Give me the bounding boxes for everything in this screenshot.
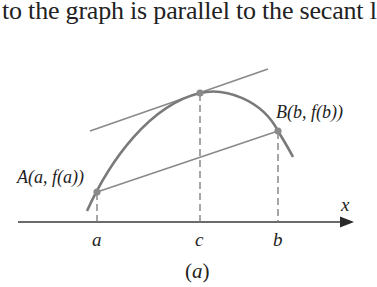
tick-label-a: a xyxy=(92,229,102,250)
secant-line xyxy=(97,131,278,192)
tick-label-c: c xyxy=(195,229,204,250)
x-axis-label: x xyxy=(340,194,350,215)
function-curve xyxy=(87,92,293,211)
figure-caption: (a) xyxy=(185,259,210,283)
point-b-marker xyxy=(274,127,281,134)
point-b-label: B(b, f(b)) xyxy=(276,102,343,123)
point-a-marker xyxy=(93,188,100,195)
tick-label-b: b xyxy=(273,229,283,250)
point-c-marker xyxy=(196,89,203,96)
point-a-label: A(a, f(a)) xyxy=(16,167,84,188)
x-axis-arrow-icon xyxy=(340,217,354,228)
